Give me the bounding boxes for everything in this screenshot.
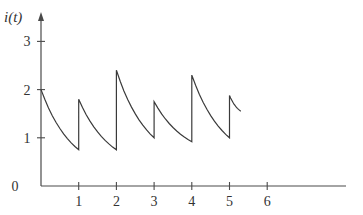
x-tick-label: 5: [226, 194, 233, 209]
y-tick-label: 2: [24, 83, 31, 98]
tick-labels: 1234560123: [12, 34, 271, 209]
y-axis-label: i(t): [4, 9, 22, 26]
y-tick-label: 3: [24, 34, 31, 49]
y-tick-label: 1: [24, 131, 31, 146]
x-tick-label: 6: [264, 194, 271, 209]
x-tick-label: 4: [188, 194, 195, 209]
current-curve: [41, 70, 241, 150]
y-tick-label: 0: [12, 179, 19, 194]
ticks: [37, 41, 267, 190]
y-axis-arrow-icon: [38, 12, 44, 21]
x-tick-label: 3: [151, 194, 158, 209]
chart: 1234560123 i(t): [0, 0, 363, 215]
x-tick-label: 2: [113, 194, 120, 209]
x-tick-label: 1: [75, 194, 82, 209]
